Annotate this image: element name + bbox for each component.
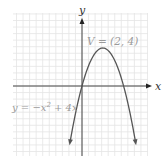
parabola-graph: x y V = (2, 4) y = −x2 + 4x xyxy=(0,0,167,162)
y-axis-label: y xyxy=(78,4,86,17)
equation-label: y = −x2 + 4x xyxy=(11,101,78,113)
y-axis-arrow-icon xyxy=(80,18,85,24)
equation-part-2: + 4x xyxy=(51,102,78,113)
x-axis: x xyxy=(13,80,162,93)
vertex-label: V = (2, 4) xyxy=(87,35,138,47)
equation-part-1: y = −x xyxy=(11,102,47,113)
x-axis-arrow-icon xyxy=(146,84,152,89)
parabola-curve xyxy=(70,48,136,142)
curve-right-arrow-icon xyxy=(133,139,138,145)
x-axis-label: x xyxy=(155,80,162,93)
